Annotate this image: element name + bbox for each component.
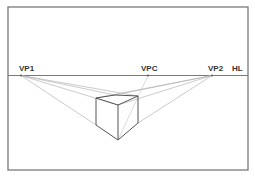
- vpc-label: VPC: [141, 64, 158, 73]
- hl-label: HL: [232, 64, 243, 73]
- diagram-frame: [8, 7, 248, 170]
- vp2-label: VP2: [208, 64, 224, 73]
- vp1-label: VP1: [19, 64, 35, 73]
- vp1-point: [20, 75, 22, 77]
- vpc-point: [147, 75, 149, 77]
- perspective-diagram: VP1 VPC VP2 HL: [0, 0, 255, 176]
- vp2-point: [211, 75, 213, 77]
